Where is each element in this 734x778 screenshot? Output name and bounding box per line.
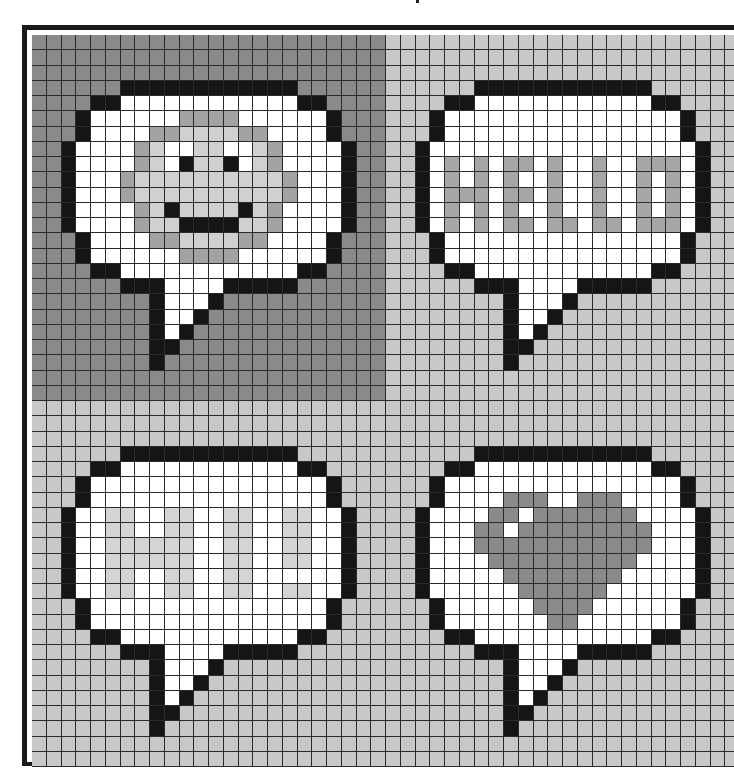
pixel-cell [371,447,386,462]
pixel-cell [121,447,136,462]
pixel-cell [652,401,667,416]
pixel-cell [32,127,47,142]
pixel-cell [342,66,357,81]
pixel-cell [32,35,47,50]
pixel-cell [681,279,696,294]
pixel-cell [209,691,224,706]
pixel-cell [416,249,431,264]
pixel-cell [475,706,490,721]
pixel-cell [475,493,490,508]
pixel-cell [534,35,549,50]
pixel-cell [607,401,622,416]
pixel-cell [224,432,239,447]
pixel-cell [253,599,268,614]
pixel-cell [283,676,298,691]
pixel-cell [135,447,150,462]
pixel-cell [637,142,652,157]
pixel-cell [32,416,47,431]
pixel-cell [593,172,608,187]
pixel-cell [327,569,342,584]
pixel-cell [593,249,608,264]
pixel-cell [637,371,652,386]
pixel-cell [607,310,622,325]
pixel-cell [652,81,667,96]
pixel-cell [106,157,121,172]
pixel-cell [239,310,254,325]
pixel-cell [563,401,578,416]
pixel-cell [180,157,195,172]
pixel-cell [76,81,91,96]
pixel-cell [135,660,150,675]
pixel-cell [504,188,519,203]
pixel-cell [283,477,298,492]
pixel-cell [91,203,106,218]
pixel-cell [534,142,549,157]
pixel-cell [563,569,578,584]
pixel-cell [578,310,593,325]
pixel-cell [135,721,150,736]
pixel-cell [357,554,372,569]
pixel-cell [91,584,106,599]
pixel-cell [563,96,578,111]
pixel-cell [607,523,622,538]
pixel-cell [593,599,608,614]
pixel-cell [666,218,681,233]
pixel-cell [548,249,563,264]
pixel-cell [696,599,711,614]
pixel-cell [209,493,224,508]
pixel-cell [711,233,726,248]
pixel-cell [519,737,534,752]
pixel-cell [460,569,475,584]
pixel-cell [622,615,637,630]
pixel-cell [489,691,504,706]
pixel-cell [666,706,681,721]
pixel-cell [637,50,652,65]
pixel-cell [711,691,726,706]
pixel-cell [180,325,195,340]
pixel-cell [430,142,445,157]
pixel-cell [460,706,475,721]
pixel-cell [283,554,298,569]
pixel-cell [563,447,578,462]
pixel-cell [283,660,298,675]
pixel-cell [135,294,150,309]
pixel-cell [180,615,195,630]
pixel-cell [180,447,195,462]
pixel-cell [106,111,121,126]
pixel-cell [386,477,401,492]
pixel-cell [165,477,180,492]
pixel-cell [253,35,268,50]
pixel-cell [401,142,416,157]
pixel-cell [725,325,734,340]
pixel-cell [150,630,165,645]
pixel-cell [504,691,519,706]
pixel-cell [135,35,150,50]
pixel-cell [504,157,519,172]
pixel-cell [622,737,637,752]
pixel-cell [563,35,578,50]
pixel-cell [47,386,62,401]
pixel-cell [416,142,431,157]
pixel-cell [165,645,180,660]
pixel-cell [47,96,62,111]
pixel-cell [224,386,239,401]
pixel-cell [135,264,150,279]
pixel-cell [106,569,121,584]
pixel-cell [180,676,195,691]
pixel-cell [504,142,519,157]
pixel-cell [652,615,667,630]
pixel-cell [696,691,711,706]
pixel-cell [357,172,372,187]
pixel-cell [622,340,637,355]
pixel-cell [62,538,77,553]
pixel-cell [460,691,475,706]
pixel-cell [578,737,593,752]
pixel-cell [312,691,327,706]
pixel-cell [548,477,563,492]
pixel-cell [593,477,608,492]
pixel-cell [180,691,195,706]
pixel-cell [593,630,608,645]
pixel-cell [725,142,734,157]
pixel-cell [401,96,416,111]
pixel-cell [283,691,298,706]
